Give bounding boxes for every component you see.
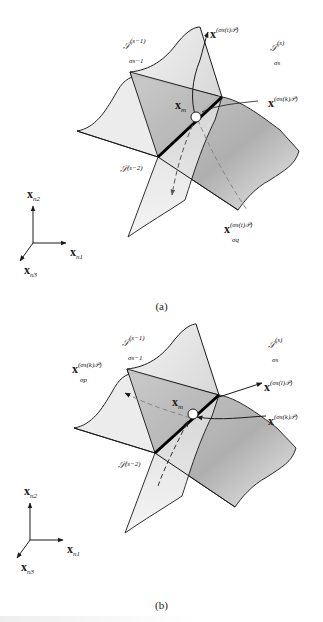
label-sub: n2	[30, 492, 37, 500]
label-surface-s-minus-1: 𝒮(s−1) σs−1	[123, 40, 146, 62]
label-sub: n1	[73, 550, 80, 558]
label-sup: (s−1)	[129, 334, 145, 342]
label-sub: σs−1	[129, 57, 143, 65]
label-sup: (s−1)	[130, 37, 146, 45]
label-sub: n3	[27, 568, 34, 576]
axis-label-n3: xn3	[24, 264, 37, 276]
point-xm	[191, 112, 201, 122]
panel-b: 𝒮(s−1) σs−1 𝒮(s) σs 𝒮(s−2) xm x(σs(k)𝒫) …	[0, 311, 323, 622]
label-sup: (σs(k)𝒫)	[78, 361, 102, 369]
label-vector-top: x(σs(t)𝒫)	[210, 28, 238, 40]
label-point-xm: xm	[175, 99, 186, 111]
label-vector-left: x(σs(k)𝒫) σp	[72, 363, 102, 386]
label-sup: (σs(k)𝒫)	[274, 413, 298, 421]
label-sup: (s−2)	[127, 164, 143, 172]
label-sub: σp	[80, 376, 87, 384]
label-sup: (σs(k)𝒫)	[274, 95, 298, 103]
axes-triad-b	[17, 503, 63, 558]
label-surface-s-minus-2: 𝒮(s−2)	[118, 459, 141, 470]
page-bottom-edge	[0, 616, 323, 622]
axis-label-n3: xn3	[21, 561, 34, 573]
axis-label-n2: xn2	[24, 485, 37, 497]
label-sup: (s−2)	[125, 460, 141, 468]
label-sub: m	[178, 403, 183, 411]
vector-right-top-arrow	[219, 383, 262, 397]
panel-a: 𝒮(s−1) σs−1 𝒮(s) σs 𝒮(s−2) xm x(σs(t)𝒫) …	[0, 0, 323, 311]
label-sup: (σs(l)𝒫)	[270, 379, 292, 387]
label-sup: (σs(t)𝒫)	[230, 221, 252, 229]
label-sub: n2	[33, 195, 40, 203]
label-surface-s: 𝒮(s) σs	[270, 42, 284, 64]
label-sub: n3	[30, 271, 37, 279]
label-vector-right-bottom: x(σs(k)𝒫)	[268, 415, 298, 427]
label-surface-s-minus-2: 𝒮(s−2)	[120, 163, 143, 174]
label-base: 𝒮	[270, 43, 277, 53]
label-sub: σs−1	[128, 354, 142, 362]
axes-triad-a	[20, 206, 66, 261]
label-sub: σq	[232, 236, 239, 244]
label-sup: (s)	[277, 39, 284, 47]
axis-label-n2: xn2	[27, 188, 40, 200]
label-point-xm: xm	[172, 396, 183, 408]
label-base: 𝒮	[268, 340, 275, 350]
label-base: 𝒮	[118, 460, 125, 470]
label-sub: n1	[76, 253, 83, 261]
axis-label-n1: xn1	[67, 543, 80, 555]
label-base: 𝒮	[123, 41, 130, 51]
caption-b: (b)	[0, 599, 323, 611]
label-sup: (s)	[275, 336, 282, 344]
label-sub: σs	[272, 356, 278, 364]
axis-label-n1: xn1	[70, 246, 83, 258]
label-vector-bottom: x(σs(t)𝒫) σq	[224, 223, 252, 246]
label-vector-right: x(σs(k)𝒫)	[268, 97, 298, 109]
label-sub: m	[181, 106, 186, 114]
point-xm	[188, 409, 198, 419]
label-sup: (σs(t)𝒫)	[216, 26, 238, 34]
label-vector-right-top: x(σs(l)𝒫)	[264, 381, 292, 393]
label-base: 𝒮	[120, 164, 127, 174]
label-sub: σs	[274, 59, 280, 67]
label-surface-s-minus-1: 𝒮(s−1) σs−1	[122, 337, 145, 359]
label-base: 𝒮	[122, 338, 129, 348]
label-surface-s: 𝒮(s) σs	[268, 339, 282, 361]
